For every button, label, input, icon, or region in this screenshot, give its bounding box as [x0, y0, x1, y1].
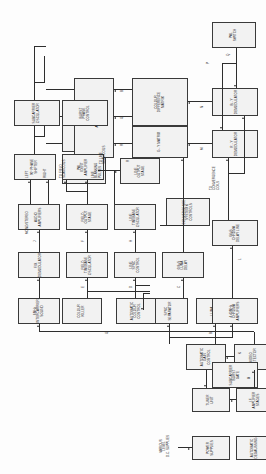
- label-right-output: RIGHT: [44, 169, 47, 178]
- node-q: Q: [226, 54, 230, 56]
- node-c: C: [177, 286, 181, 288]
- label-to-convergence-coils: TO CONVERGENCE COILS: [210, 166, 220, 190]
- label-to-field-scan-coils: TO FIELD SCAN COILS: [60, 160, 67, 178]
- node-f: F: [81, 240, 85, 242]
- node-n: N: [200, 106, 204, 108]
- label-various-dc-supplies: VARIOUS LEVEL D.C. SUPPLIES: [160, 424, 170, 468]
- node-r: R: [126, 160, 130, 162]
- label-to-line-scan-coils: TO LINE SCAN COILS: [100, 146, 107, 164]
- node-k: K: [238, 352, 242, 354]
- node-d: D: [129, 286, 133, 288]
- node-m: M: [200, 148, 204, 151]
- label-line-blanking-pulses: LINE BLANKING PULSES: [92, 163, 102, 178]
- node-j: J: [33, 241, 37, 243]
- rgb-label-r: R: [120, 144, 124, 146]
- label-left-output: LEFT: [26, 171, 29, 178]
- node-p: P: [206, 62, 210, 64]
- node-l: L: [238, 258, 242, 260]
- label-mono-stereo: MONO/STEREO: [26, 211, 29, 234]
- node-g: G: [105, 332, 109, 334]
- node-h: H: [129, 240, 133, 242]
- node-b: B: [209, 332, 213, 334]
- node-a: A: [247, 377, 251, 379]
- diagram-labels: A.C. MAINS INPUT AERIAL INPUT VARIOUS LE…: [0, 0, 266, 474]
- rgb-label-b: B: [120, 90, 124, 92]
- node-e: E: [81, 286, 85, 288]
- diagram-page: CRT POWER SUPPLIES AUTOMATIC DEGAUSSING …: [0, 0, 266, 474]
- rgb-label-g: G: [120, 117, 124, 119]
